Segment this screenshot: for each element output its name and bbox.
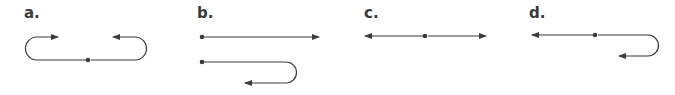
origin-point-b-bottom xyxy=(200,60,205,65)
diagram-canvas xyxy=(0,0,675,95)
origin-point-c xyxy=(423,34,428,39)
origin-point-a xyxy=(86,58,91,63)
arrow-path-b-bottom xyxy=(203,62,297,83)
panel-d-diagram xyxy=(532,33,659,56)
arrow-path-a-right xyxy=(91,37,147,60)
panel-b-diagram xyxy=(200,35,319,83)
origin-point-b-top xyxy=(200,35,205,40)
arrow-path-d-right xyxy=(598,35,659,56)
panel-c-diagram xyxy=(365,34,486,39)
origin-point-d xyxy=(593,33,598,38)
panel-a-diagram xyxy=(26,37,147,62)
arrow-path-a-left xyxy=(26,37,87,60)
